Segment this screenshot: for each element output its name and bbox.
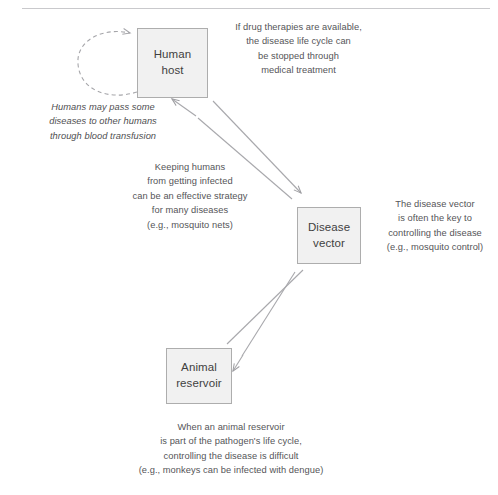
diagram-canvas: Human host Disease vector Animal reservo… bbox=[0, 0, 498, 495]
header-divider bbox=[22, 8, 490, 9]
connector-animal-reservoir-to-disease-vector bbox=[227, 270, 303, 371]
node-animal-reservoir-label: Animal reservoir bbox=[176, 360, 222, 392]
node-human-host[interactable]: Human host bbox=[137, 28, 208, 98]
node-disease-vector-label: Disease vector bbox=[308, 220, 350, 252]
node-animal-reservoir[interactable]: Animal reservoir bbox=[166, 348, 232, 404]
annotation-drug-therapies: If drug therapies are available, the dis… bbox=[206, 20, 391, 78]
annotation-disease-vector-key: The disease vector is often the key to c… bbox=[372, 197, 498, 255]
connector-human-host-self-loop bbox=[78, 32, 137, 96]
annotation-mosquito-nets: Keeping humans from getting infected can… bbox=[110, 160, 270, 232]
annotation-blood-transfusion: Humans may pass some diseases to other h… bbox=[14, 100, 192, 143]
node-disease-vector[interactable]: Disease vector bbox=[297, 207, 361, 264]
annotation-animal-reservoir-note: When an animal reservoir is part of the … bbox=[66, 420, 396, 478]
node-human-host-label: Human host bbox=[154, 47, 192, 79]
